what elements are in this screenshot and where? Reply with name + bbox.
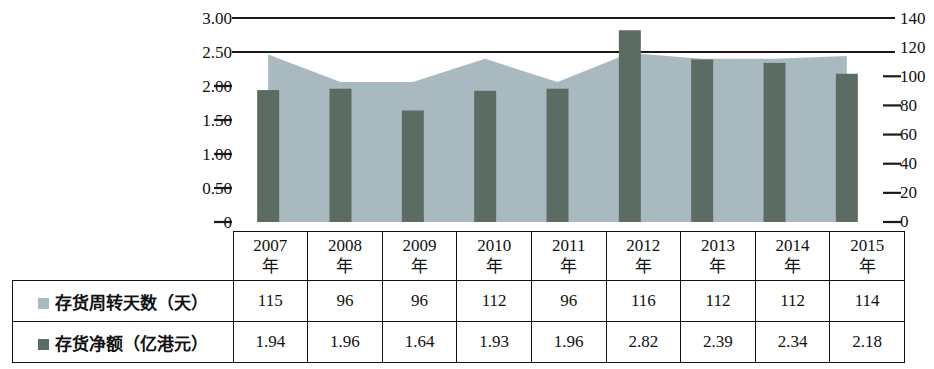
year-header-cell: 2010年 [457,232,532,281]
table-cell: 1.64 [382,322,457,363]
year-suffix: 年 [383,256,457,277]
series-label-turnover-days: 存货周转天数（天） [13,281,234,322]
table-cell: 115 [233,281,308,322]
year-header-cell: 2008年 [308,232,383,281]
table-cell: 114 [830,281,905,322]
table-cell: 116 [606,281,681,322]
year-number: 2010 [457,235,531,256]
table-cell: 112 [681,281,756,322]
table-cell: 1.96 [308,322,383,363]
gridlines [232,18,895,52]
year-suffix: 年 [308,256,382,277]
table-cell: 1.93 [457,322,532,363]
year-number: 2012 [607,235,681,256]
table-cell: 2.34 [755,322,830,363]
legend-swatch-icon [38,339,49,350]
year-number: 2008 [308,235,382,256]
table-row: 存货净额（亿港元） 1.94 1.96 1.64 1.93 1.96 2.82 … [13,322,905,363]
year-number: 2013 [681,235,755,256]
table-cell: 2.82 [606,322,681,363]
table-cell: 96 [531,281,606,322]
data-table-region: 2007年 2008年 2009年 2010年 2011年 2012年 2013… [12,231,905,363]
year-suffix: 年 [681,256,755,277]
year-suffix: 年 [830,256,904,277]
year-number: 2015 [830,235,904,256]
year-number: 2009 [383,235,457,256]
year-header-cell: 2013年 [681,232,756,281]
year-suffix: 年 [756,256,830,277]
table-cell: 2.18 [830,322,905,363]
year-number: 2007 [234,235,308,256]
year-header-cell: 2014年 [755,232,830,281]
year-suffix: 年 [457,256,531,277]
table-row: 存货周转天数（天） 115 96 96 112 96 116 112 112 1… [13,281,905,322]
series-label-net-amount: 存货净额（亿港元） [13,322,234,363]
plot-svg [0,0,934,232]
year-header-cell: 2011年 [531,232,606,281]
series-label-text: 存货净额（亿港元） [55,334,208,354]
year-suffix: 年 [607,256,681,277]
table-cell: 1.94 [233,322,308,363]
year-suffix: 年 [532,256,606,277]
year-suffix: 年 [234,256,308,277]
chart-area: 3.00 2.50 2.00 1.50 1.00 0.50 0 140 120 … [0,0,934,232]
data-table: 2007年 2008年 2009年 2010年 2011年 2012年 2013… [12,231,905,363]
year-header-cell: 2012年 [606,232,681,281]
year-number: 2011 [532,235,606,256]
table-cell: 112 [755,281,830,322]
table-cell: 1.96 [531,322,606,363]
table-row-years: 2007年 2008年 2009年 2010年 2011年 2012年 2013… [13,232,905,281]
table-cell: 96 [308,281,383,322]
year-header-cell: 2009年 [382,232,457,281]
table-cell: 96 [382,281,457,322]
year-header-cell: 2007年 [233,232,308,281]
chart-page: 3.00 2.50 2.00 1.50 1.00 0.50 0 140 120 … [0,0,934,369]
series-label-text: 存货周转天数（天） [55,293,208,313]
table-cell: 112 [457,281,532,322]
year-header-cell: 2015年 [830,232,905,281]
legend-swatch-icon [38,298,49,309]
table-cell: 2.39 [681,322,756,363]
year-number: 2014 [756,235,830,256]
table-corner-blank [13,232,234,281]
